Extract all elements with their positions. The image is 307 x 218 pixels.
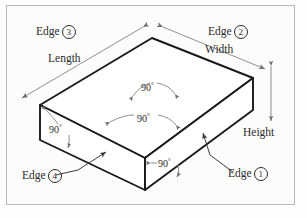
edge-callout-1: Edge1 — [228, 167, 268, 181]
figure-container: Edge3 Edge2 Edge1 Edge4 Length Width Hei… — [0, 0, 307, 218]
width-label: Width — [205, 44, 233, 56]
edge-4-number: 4 — [48, 169, 62, 183]
angle-left-unit: ° — [59, 123, 62, 131]
angle-top-center-label: 90° — [141, 82, 154, 93]
edge-1-text: Edge — [228, 167, 252, 179]
angle-left-value: 90 — [49, 124, 59, 135]
edge-1-number: 1 — [254, 167, 268, 181]
angle-top-center-unit: ° — [151, 81, 154, 89]
angle-top-center-value: 90 — [141, 82, 151, 93]
angle-left-label: 90° — [49, 124, 62, 135]
angle-front-bottom-value: 90 — [158, 158, 168, 169]
edge-2-text: Edge — [208, 25, 232, 37]
angle-front-top-label: 90° — [137, 113, 150, 124]
angle-front-bottom-label: 90° — [158, 158, 171, 169]
length-label: Length — [48, 53, 81, 65]
edge-callout-2: Edge2 — [208, 25, 248, 39]
edge-2-number: 2 — [234, 25, 248, 39]
edge-3-text: Edge — [36, 25, 60, 37]
edge-callout-3: Edge3 — [36, 25, 76, 39]
angle-front-top-unit: ° — [147, 112, 150, 120]
edge-callout-4: Edge4 — [22, 169, 62, 183]
height-label: Height — [243, 127, 274, 139]
edge-4-text: Edge — [22, 169, 46, 181]
edge-3-number: 3 — [62, 25, 76, 39]
angle-front-bottom-unit: ° — [168, 157, 171, 165]
angle-front-top-value: 90 — [137, 113, 147, 124]
